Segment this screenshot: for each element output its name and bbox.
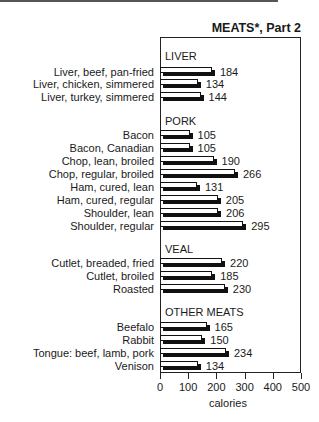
- bar: [160, 208, 221, 214]
- value-label: 150: [210, 334, 228, 346]
- bar-fill: [160, 130, 190, 136]
- row-label: Ham, cured, regular: [57, 194, 154, 206]
- x-tick: [273, 373, 274, 379]
- value-label: 190: [222, 155, 240, 167]
- bar-fill: [160, 79, 198, 85]
- group-label: PORK: [165, 115, 196, 127]
- value-label: 205: [226, 194, 244, 206]
- x-axis-label: calories: [209, 397, 247, 409]
- row-label: Shoulder, lean: [84, 207, 154, 219]
- row-label: Venison: [115, 360, 154, 372]
- bar: [160, 195, 221, 201]
- row-label: Ham, cured, lean: [70, 181, 154, 193]
- x-tick: [301, 373, 302, 379]
- x-tick-label: 300: [230, 381, 260, 393]
- bar-fill: [160, 182, 197, 188]
- x-tick: [188, 373, 189, 379]
- bar-fill: [160, 156, 214, 162]
- bar-fill: [160, 221, 243, 227]
- row-label: Chop, regular, broiled: [49, 168, 154, 180]
- x-tick: [216, 373, 217, 379]
- bar: [160, 92, 204, 98]
- value-label: 234: [234, 347, 252, 359]
- value-label: 184: [220, 66, 238, 78]
- bar: [160, 361, 201, 367]
- x-tick-label: 100: [173, 381, 203, 393]
- bar: [160, 221, 246, 227]
- bar-fill: [160, 143, 190, 149]
- bar: [160, 130, 193, 136]
- group-label: OTHER MEATS: [165, 306, 244, 318]
- value-label: 105: [198, 142, 216, 154]
- x-tick: [245, 373, 246, 379]
- value-label: 144: [209, 91, 227, 103]
- bar: [160, 271, 215, 277]
- bar: [160, 143, 193, 149]
- row-label: Rabbit: [122, 334, 154, 346]
- bar-fill: [160, 348, 226, 354]
- value-label: 230: [233, 283, 251, 295]
- value-label: 165: [215, 321, 233, 333]
- row-label: Liver, turkey, simmered: [41, 91, 154, 103]
- bar: [160, 79, 201, 85]
- bar-fill: [160, 92, 201, 98]
- x-tick-label: 200: [201, 381, 231, 393]
- bar-fill: [160, 67, 212, 73]
- bar-fill: [160, 195, 218, 201]
- bar: [160, 258, 225, 264]
- group-label: VEAL: [165, 243, 193, 255]
- value-label: 134: [206, 78, 224, 90]
- row-label: Cutlet, breaded, fried: [51, 257, 154, 269]
- row-label: Shoulder, regular: [70, 220, 154, 232]
- bar: [160, 156, 217, 162]
- row-label: Beefalo: [117, 321, 154, 333]
- bar-fill: [160, 361, 198, 367]
- value-label: 266: [243, 168, 261, 180]
- bar: [160, 335, 205, 341]
- x-tick: [160, 373, 161, 379]
- row-label: Chop, lean, broiled: [62, 155, 154, 167]
- bar-fill: [160, 271, 212, 277]
- bar: [160, 169, 238, 175]
- group-label: LIVER: [165, 50, 197, 62]
- value-label: 206: [226, 207, 244, 219]
- value-label: 185: [220, 270, 238, 282]
- value-label: 295: [251, 220, 269, 232]
- bar: [160, 284, 228, 290]
- bar: [160, 182, 200, 188]
- row-label: Bacon, Canadian: [70, 142, 154, 154]
- value-label: 134: [206, 360, 224, 372]
- value-label: 105: [198, 129, 216, 141]
- bar-fill: [160, 208, 218, 214]
- x-tick-label: 500: [286, 381, 316, 393]
- bar-fill: [160, 284, 225, 290]
- bar: [160, 322, 210, 328]
- bar-fill: [160, 169, 235, 175]
- row-label: Liver, beef, pan-fried: [54, 66, 154, 78]
- row-label: Cutlet, broiled: [86, 270, 154, 282]
- row-label: Roasted: [113, 283, 154, 295]
- row-label: Liver, chicken, simmered: [33, 78, 154, 90]
- row-label: Bacon: [123, 129, 154, 141]
- bar: [160, 348, 229, 354]
- value-label: 131: [205, 181, 223, 193]
- x-tick-label: 0: [145, 381, 175, 393]
- value-label: 220: [230, 257, 248, 269]
- row-label: Tongue: beef, lamb, pork: [33, 347, 154, 359]
- bar-fill: [160, 258, 222, 264]
- bar: [160, 67, 215, 73]
- top-rule: [0, 0, 278, 2]
- x-tick-label: 400: [258, 381, 288, 393]
- bar-fill: [160, 322, 207, 328]
- chart-title: MEATS*, Part 2: [212, 21, 301, 35]
- bar-fill: [160, 335, 202, 341]
